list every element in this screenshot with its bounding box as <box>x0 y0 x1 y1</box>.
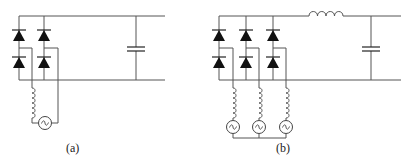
ac-source-icon <box>280 121 293 134</box>
diode-icon <box>12 30 26 41</box>
inductor-icon <box>286 88 289 120</box>
ac-source-icon <box>227 121 240 134</box>
diode-icon <box>266 30 280 41</box>
inductor-to-source-wire <box>32 118 38 123</box>
diode-icon <box>37 57 51 68</box>
circuit-figure: (a) <box>0 0 411 163</box>
ac-source-icon <box>39 117 52 130</box>
diode-icon <box>37 30 51 41</box>
panel-label-a: (a) <box>66 141 79 155</box>
panel-a: (a) <box>12 16 165 155</box>
leg-2-midpoint-wire <box>44 48 58 123</box>
inductor-icon <box>32 88 35 118</box>
diode-icon <box>212 30 226 41</box>
inductor-icon <box>233 88 236 120</box>
dc-inductor-icon <box>309 12 343 17</box>
panel-b: (b) <box>212 12 401 156</box>
panel-label-b: (b) <box>276 141 290 155</box>
diode-icon <box>239 30 253 41</box>
inductor-icon <box>259 88 262 120</box>
ac-source-icon <box>253 121 266 134</box>
diode-icon <box>212 57 226 68</box>
diode-icon <box>12 57 26 68</box>
diode-icon <box>266 57 280 68</box>
diode-icon <box>239 57 253 68</box>
